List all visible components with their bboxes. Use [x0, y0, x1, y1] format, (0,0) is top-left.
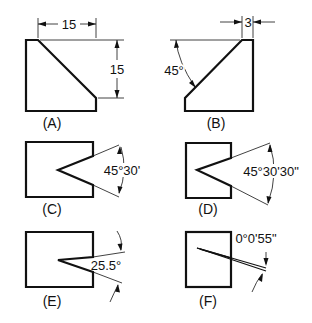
dimension-angle-f: 0°0'55" — [235, 231, 277, 246]
dimension-angle-e: 25.5° — [91, 258, 122, 273]
dimension-chamfer-b: 3 — [244, 15, 251, 30]
panel-b: 3 45° 45° (B) — [164, 15, 275, 131]
dimension-angle-c: 45°30' — [104, 163, 141, 178]
panel-e: 25.5° (E) — [26, 231, 125, 309]
notched-block-d — [186, 143, 231, 198]
notched-block-c — [26, 142, 93, 197]
panel-a: 15 15 (A) — [26, 17, 124, 131]
panel-f: 0°0'55" (F) — [186, 231, 277, 309]
chamfered-block-a — [26, 40, 96, 111]
panel-label-b: (B) — [207, 115, 226, 131]
panel-label-c: (C) — [42, 201, 61, 217]
dimensioning-figure: 15 15 (A) 3 45° 45° (B) — [0, 0, 312, 323]
dimension-height-a: 15 — [110, 62, 124, 77]
panel-label-f: (F) — [199, 293, 217, 309]
panel-label-a: (A) — [43, 115, 62, 131]
dimension-width-a: 15 — [62, 17, 76, 32]
block-f — [186, 232, 231, 287]
panel-label-d: (D) — [198, 201, 217, 217]
panel-c: 45°30' (C) — [26, 142, 144, 217]
panel-d: 45°30'30" (D) — [186, 143, 302, 217]
dimension-angle-d: 45°30'30" — [243, 164, 299, 179]
notched-block-e — [26, 232, 93, 287]
dimension-angle-b: 45° — [164, 63, 184, 78]
chamfered-block-b — [185, 40, 253, 111]
panel-label-e: (E) — [43, 293, 62, 309]
